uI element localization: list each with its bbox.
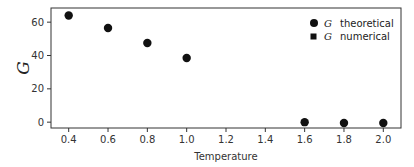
x-tick-label: 0.6: [100, 134, 116, 145]
legend-circle-marker-icon: [310, 19, 318, 27]
legend-label-1: theoretical: [340, 18, 394, 29]
y-axis-label: G: [13, 61, 33, 75]
x-tick-label: 0.4: [61, 134, 77, 145]
data-point: [379, 119, 387, 127]
y-tick-label: 0: [38, 117, 44, 128]
x-tick-label: 1.4: [257, 134, 273, 145]
data-point: [340, 119, 348, 127]
y-axis-ticks: 0204060: [31, 17, 51, 128]
x-tick-label: 1.2: [218, 134, 234, 145]
data-point: [143, 39, 151, 47]
data-point: [300, 118, 308, 126]
x-tick-label: 1.8: [336, 134, 352, 145]
x-tick-label: 1.6: [297, 134, 313, 145]
x-axis-label: Temperature: [193, 151, 257, 162]
data-point: [104, 24, 112, 32]
x-tick-label: 2.0: [375, 134, 391, 145]
scatter-chart: 0.40.60.81.01.21.41.61.82.0 0204060 Temp…: [0, 0, 414, 167]
y-tick-label: 20: [31, 83, 44, 94]
legend-symbol-2: G: [324, 31, 332, 42]
x-axis-ticks: 0.40.60.81.01.21.41.61.82.0: [61, 128, 392, 145]
legend: G theoretical G numerical: [310, 18, 394, 42]
y-tick-label: 60: [31, 17, 44, 28]
legend-square-marker-icon: [311, 34, 317, 40]
legend-label-2: numerical: [340, 31, 390, 42]
data-point: [64, 11, 72, 19]
x-tick-label: 1.0: [179, 134, 195, 145]
legend-symbol-1: G: [324, 18, 332, 29]
y-tick-label: 40: [31, 50, 44, 61]
data-point: [182, 54, 190, 62]
x-tick-label: 0.8: [139, 134, 155, 145]
